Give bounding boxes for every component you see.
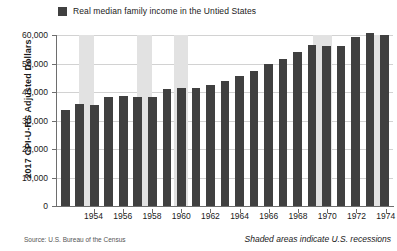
bar — [380, 35, 389, 206]
legend-swatch-icon — [58, 7, 67, 16]
y-tick-label: 10,000 — [0, 173, 48, 183]
bar — [351, 37, 360, 206]
y-tick-mark — [52, 92, 56, 93]
y-tick-label: 40,000 — [0, 87, 48, 97]
bar — [75, 104, 84, 206]
x-tick-mark — [356, 209, 357, 213]
source-note: Source: U.S. Bureau of the Census — [24, 236, 126, 243]
bar-slot — [247, 35, 262, 206]
bar-slot — [232, 35, 247, 206]
bar-slot — [189, 35, 204, 206]
x-tick-mark — [152, 209, 153, 213]
bar — [279, 59, 288, 206]
bar — [177, 88, 186, 206]
chart-legend: Real median family income in the Untied … — [58, 4, 256, 18]
y-tick-label: 60,000 — [0, 30, 48, 40]
plot-area — [57, 35, 393, 206]
bar-slot — [377, 35, 392, 206]
y-tick-label: 20,000 — [0, 144, 48, 154]
bar — [235, 76, 244, 206]
bar-slot — [131, 35, 146, 206]
bar-slot — [160, 35, 175, 206]
x-tick-mark — [123, 209, 124, 213]
bar-slot — [334, 35, 349, 206]
bar — [221, 81, 230, 206]
bar — [322, 46, 331, 206]
y-tick-mark — [52, 121, 56, 122]
bar — [308, 45, 317, 206]
bar — [206, 85, 215, 206]
y-tick-label: 50,000 — [0, 59, 48, 69]
bar-slot — [363, 35, 378, 206]
x-tick-mark — [240, 209, 241, 213]
bar — [148, 97, 157, 206]
bar — [366, 33, 375, 206]
bar — [90, 105, 99, 206]
bar — [250, 71, 259, 206]
x-axis-line — [56, 206, 394, 207]
x-tick-mark — [386, 209, 387, 213]
bar-slot — [290, 35, 305, 206]
x-tick-mark — [210, 209, 211, 213]
y-tick-mark — [52, 64, 56, 65]
y-tick-label: 0 — [0, 201, 48, 211]
bar-slot — [145, 35, 160, 206]
x-tick-mark — [269, 209, 270, 213]
y-tick-label: 30,000 — [0, 116, 48, 126]
bar — [119, 96, 128, 206]
bar-slot — [261, 35, 276, 206]
bar — [133, 97, 142, 206]
bar-slot — [218, 35, 233, 206]
bar-slot — [348, 35, 363, 206]
bar-slot — [174, 35, 189, 206]
bar — [337, 46, 346, 206]
bar — [192, 88, 201, 206]
bar-slot — [276, 35, 291, 206]
bar — [104, 97, 113, 206]
bar — [293, 52, 302, 206]
bar-slot — [58, 35, 73, 206]
bar-slot — [116, 35, 131, 206]
bar — [163, 89, 172, 206]
y-tick-mark — [52, 149, 56, 150]
x-axis-ticks: 1954195619581960196219641966196819701972… — [57, 209, 393, 225]
bar-slot — [102, 35, 117, 206]
bar-slot — [73, 35, 88, 206]
x-tick-mark — [94, 209, 95, 213]
bar-slot — [319, 35, 334, 206]
bar-slot — [305, 35, 320, 206]
bar-slot — [87, 35, 102, 206]
x-tick-mark — [181, 209, 182, 213]
recession-note: Shaded areas indicate U.S. recessions — [245, 234, 391, 244]
legend-label: Real median family income in the Untied … — [73, 6, 256, 16]
y-tick-mark — [52, 206, 56, 207]
x-tick-mark — [327, 209, 328, 213]
bar-slot — [203, 35, 218, 206]
y-tick-mark — [52, 178, 56, 179]
y-tick-mark — [52, 35, 56, 36]
x-tick-mark — [298, 209, 299, 213]
bar — [61, 110, 70, 206]
bar — [264, 64, 273, 207]
bar-series — [57, 35, 393, 206]
